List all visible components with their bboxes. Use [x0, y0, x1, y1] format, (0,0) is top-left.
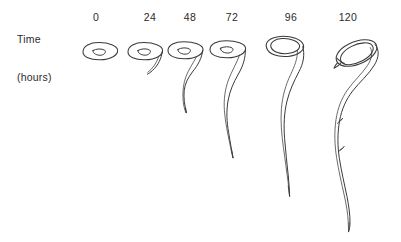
- lateral-root-lower-120h: [338, 146, 344, 151]
- seed-coat-24h: [128, 43, 163, 60]
- seedling-stage-0h: [83, 43, 118, 60]
- seed-coat-inner-96h: [271, 39, 300, 54]
- primary-root-outline-96h: [281, 51, 297, 197]
- seedling-stage-120h: [334, 40, 378, 232]
- primary-root-outline-72h: [224, 55, 239, 158]
- primary-root-120h: [338, 45, 378, 232]
- seed-hilum-48h: [178, 48, 191, 54]
- seedling-stage-96h: [266, 36, 304, 196]
- seed-coat-48h: [168, 42, 203, 59]
- seedling-stage-72h: [210, 41, 246, 158]
- primary-root-48h: [184, 51, 203, 113]
- germination-stages-illustration: [0, 0, 401, 242]
- seedling-stage-24h: [128, 43, 163, 75]
- seed-hilum-0h: [93, 49, 106, 55]
- seed-coat-0h: [83, 43, 118, 60]
- seed-hilum-24h: [138, 49, 151, 55]
- seed-coat-72h: [210, 41, 246, 58]
- seedling-stage-48h: [168, 42, 203, 113]
- germination-figure: Time (hours) 0 24 48 72 96 120: [0, 0, 401, 242]
- seed-hilum-72h: [220, 47, 233, 53]
